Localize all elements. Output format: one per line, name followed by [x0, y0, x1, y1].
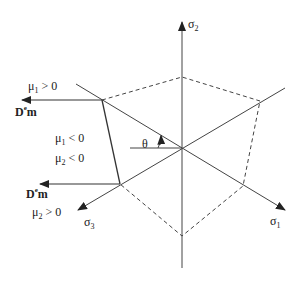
mu-relation: > 0 [42, 205, 61, 219]
mu1-negative-label: μ1 < 0 [55, 132, 84, 144]
mu-relation: < 0 [65, 151, 84, 165]
diagram-canvas [0, 0, 301, 282]
sigma2-label: σ2 [188, 18, 198, 30]
lower-Dm-label: Dem [26, 188, 48, 200]
sigma1-sub: 1 [276, 221, 280, 230]
mu-sub: 2 [38, 212, 42, 221]
mu1-positive-label: μ1 > 0 [28, 80, 57, 92]
sigma3-sub: 3 [90, 222, 94, 231]
mu-relation: < 0 [65, 131, 84, 145]
sigma1-axis [76, 84, 285, 210]
D-symbol: D [26, 187, 35, 201]
mu2-positive-label: μ2 > 0 [32, 206, 61, 218]
theta-label: θ [142, 138, 148, 150]
e-superscript: e [24, 104, 27, 112]
sigma2-sub: 2 [194, 24, 198, 33]
yield-surface-dashed [102, 77, 260, 236]
m-symbol: m [38, 187, 48, 201]
mu-sub: 1 [34, 86, 38, 95]
yield-surface-active-edge [102, 100, 120, 184]
theta-arc [158, 136, 161, 149]
D-symbol: D [15, 105, 24, 119]
mu-sub: 2 [61, 158, 65, 167]
mu-relation: > 0 [38, 79, 57, 93]
m-symbol: m [27, 105, 37, 119]
mu-sub: 1 [61, 138, 65, 147]
e-superscript: e [35, 186, 38, 194]
sigma1-label: σ1 [270, 215, 280, 227]
mu2-negative-label: μ2 < 0 [55, 152, 84, 164]
sigma3-label: σ3 [84, 216, 94, 228]
upper-Dm-label: Dem [15, 106, 37, 118]
